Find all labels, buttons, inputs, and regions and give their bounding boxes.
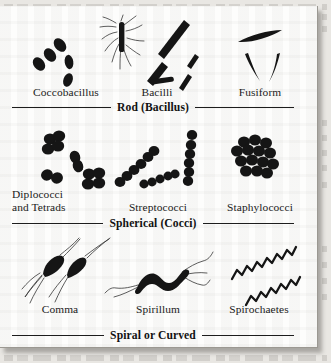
caption-fusiform: Fusiform [208,86,312,99]
rule-right [202,335,294,336]
caption-spirillum: Spirillum [108,303,208,316]
figure-spirillum [104,245,216,307]
group-spiral-or-curved: Comma Spirillum [0,235,317,347]
figure-streptococci [112,126,202,192]
caption-bacilli: Bacilli [107,86,207,99]
figure-bacilli [98,14,206,96]
rule-right [195,107,294,108]
bacteria-morphology-figure: Coccobacillus [0,6,318,348]
group-label-spherical-cocci: Spherical (Cocci) [12,217,294,230]
rule-left [12,335,104,336]
figure-staphylococci [222,134,292,190]
group-label-rod-bacillus: Rod (Bacillus) [12,101,294,114]
group-spherical-cocci: Diplococci and Tetrads [0,118,317,235]
figure-coccobacillus [26,22,104,88]
rule-right [203,223,294,224]
caption-comma: Comma [10,303,110,316]
group-label-text: Spherical (Cocci) [109,217,196,230]
figure-spirochaetes [224,235,302,311]
rule-left [12,223,103,224]
figure-diplococci-and-tetrads [32,130,112,192]
caption-spirochaetes: Spirochaetes [206,303,312,316]
caption-streptococci: Streptococci [108,201,208,214]
group-label-text: Rod (Bacillus) [117,101,189,114]
group-label-spiral-or-curved: Spiral or Curved [12,329,294,342]
group-label-text: Spiral or Curved [110,329,196,342]
group-rod-bacillus: Coccobacillus [0,6,317,118]
figure-fusiform [230,24,302,86]
caption-staphylococci: Staphylococci [208,201,312,214]
rule-left [12,107,111,108]
caption-diplococci-and-tetrads: Diplococci and Tetrads [12,188,116,214]
